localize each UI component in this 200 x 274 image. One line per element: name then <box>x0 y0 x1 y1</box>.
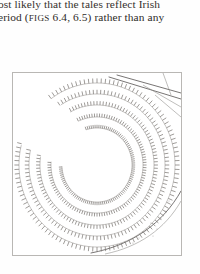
rampart-5 <box>59 125 135 205</box>
body-text-line-2-suffix: 6.4, 6.5) rather than any <box>50 11 165 23</box>
book-page-fragment: ost likely that the tales reflect Irish … <box>0 0 200 274</box>
rampart-crest-line <box>40 105 154 225</box>
hillfort-plan-drawing <box>13 73 181 255</box>
body-text-line-2: eriod (FIGS 6.4, 6.5) rather than any <box>0 10 164 25</box>
rampart-crest-line <box>51 117 143 213</box>
rampart-hachure-group <box>14 78 179 251</box>
rampart-crest-line <box>19 83 175 247</box>
figure-frame <box>12 72 182 256</box>
rampart-3 <box>36 101 158 229</box>
rampart-hachure-ticks <box>36 101 158 229</box>
body-text-line-2-prefix: eriod ( <box>0 11 29 23</box>
rampart-hachure-ticks <box>47 113 146 216</box>
rampart-hachure-ticks <box>59 125 135 205</box>
body-text-figs-smallcaps: FIGS <box>29 13 50 23</box>
rampart-4 <box>47 113 146 216</box>
rampart-crest-line <box>62 128 132 202</box>
rampart-2 <box>25 90 170 241</box>
rampart-hachure-ticks <box>25 90 170 241</box>
field-boundary-lines <box>109 73 181 117</box>
